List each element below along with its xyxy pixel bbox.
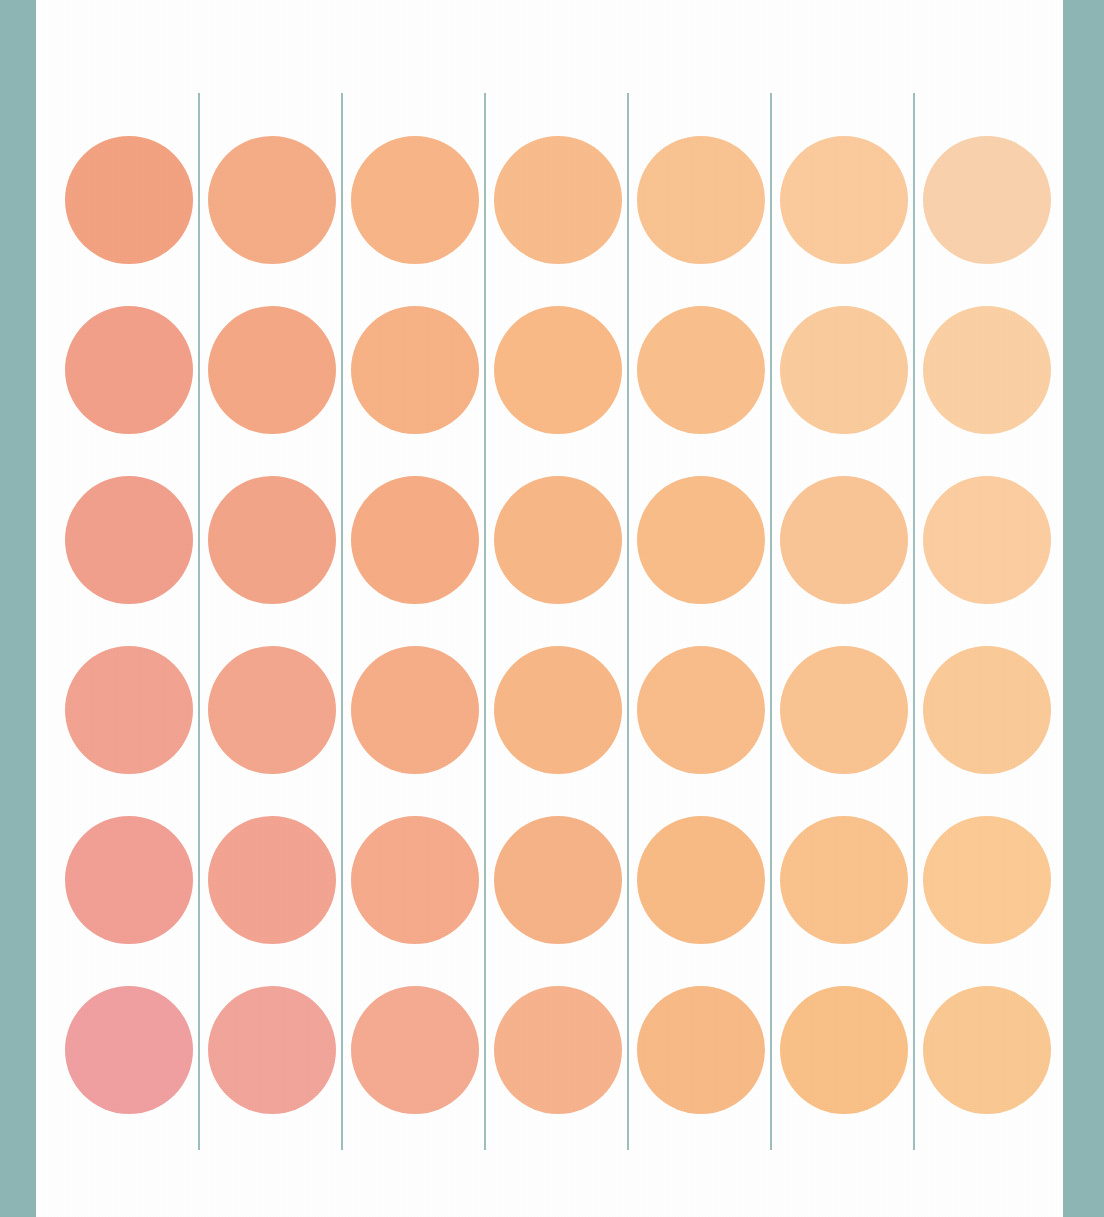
color-swatch-r3-c5[interactable] xyxy=(637,476,765,604)
color-swatch-r2-c6[interactable] xyxy=(780,306,908,434)
color-swatch-r6-c3[interactable] xyxy=(351,986,479,1114)
color-swatch-r5-c7[interactable] xyxy=(923,816,1051,944)
column-rule-4 xyxy=(627,93,629,1150)
color-swatch-r6-c7[interactable] xyxy=(923,986,1051,1114)
color-swatch-r4-c5[interactable] xyxy=(637,646,765,774)
color-swatch-r4-c3[interactable] xyxy=(351,646,479,774)
swatch-canvas xyxy=(36,0,1063,1217)
column-rule-1 xyxy=(198,93,200,1150)
color-swatch-r3-c3[interactable] xyxy=(351,476,479,604)
color-swatch-r3-c4[interactable] xyxy=(494,476,622,604)
color-swatch-r1-c4[interactable] xyxy=(494,136,622,264)
color-swatch-r5-c2[interactable] xyxy=(208,816,336,944)
color-swatch-r3-c1[interactable] xyxy=(65,476,193,604)
color-swatch-r1-c3[interactable] xyxy=(351,136,479,264)
color-swatch-r4-c2[interactable] xyxy=(208,646,336,774)
left-border-band xyxy=(0,0,36,1217)
color-swatch-r4-c6[interactable] xyxy=(780,646,908,774)
color-swatch-r3-c7[interactable] xyxy=(923,476,1051,604)
color-swatch-r1-c2[interactable] xyxy=(208,136,336,264)
column-rule-5 xyxy=(770,93,772,1150)
color-swatch-r4-c7[interactable] xyxy=(923,646,1051,774)
column-rule-6 xyxy=(913,93,915,1150)
color-swatch-r6-c5[interactable] xyxy=(637,986,765,1114)
color-swatch-r5-c3[interactable] xyxy=(351,816,479,944)
color-swatch-r3-c2[interactable] xyxy=(208,476,336,604)
color-swatch-r4-c1[interactable] xyxy=(65,646,193,774)
color-swatch-r1-c6[interactable] xyxy=(780,136,908,264)
color-swatch-r6-c2[interactable] xyxy=(208,986,336,1114)
color-swatch-r1-c7[interactable] xyxy=(923,136,1051,264)
color-swatch-r1-c5[interactable] xyxy=(637,136,765,264)
color-swatch-grid-page xyxy=(0,0,1104,1217)
color-swatch-r6-c1[interactable] xyxy=(65,986,193,1114)
color-swatch-r2-c2[interactable] xyxy=(208,306,336,434)
column-rule-3 xyxy=(484,93,486,1150)
color-swatch-r1-c1[interactable] xyxy=(65,136,193,264)
color-swatch-r5-c5[interactable] xyxy=(637,816,765,944)
color-swatch-r2-c3[interactable] xyxy=(351,306,479,434)
color-swatch-r5-c4[interactable] xyxy=(494,816,622,944)
color-swatch-r2-c5[interactable] xyxy=(637,306,765,434)
color-swatch-r6-c6[interactable] xyxy=(780,986,908,1114)
column-rule-2 xyxy=(341,93,343,1150)
color-swatch-r4-c4[interactable] xyxy=(494,646,622,774)
color-swatch-r5-c6[interactable] xyxy=(780,816,908,944)
color-swatch-r3-c6[interactable] xyxy=(780,476,908,604)
color-swatch-r5-c1[interactable] xyxy=(65,816,193,944)
right-border-band xyxy=(1063,0,1104,1217)
color-swatch-r6-c4[interactable] xyxy=(494,986,622,1114)
color-swatch-r2-c7[interactable] xyxy=(923,306,1051,434)
color-swatch-r2-c4[interactable] xyxy=(494,306,622,434)
color-swatch-r2-c1[interactable] xyxy=(65,306,193,434)
